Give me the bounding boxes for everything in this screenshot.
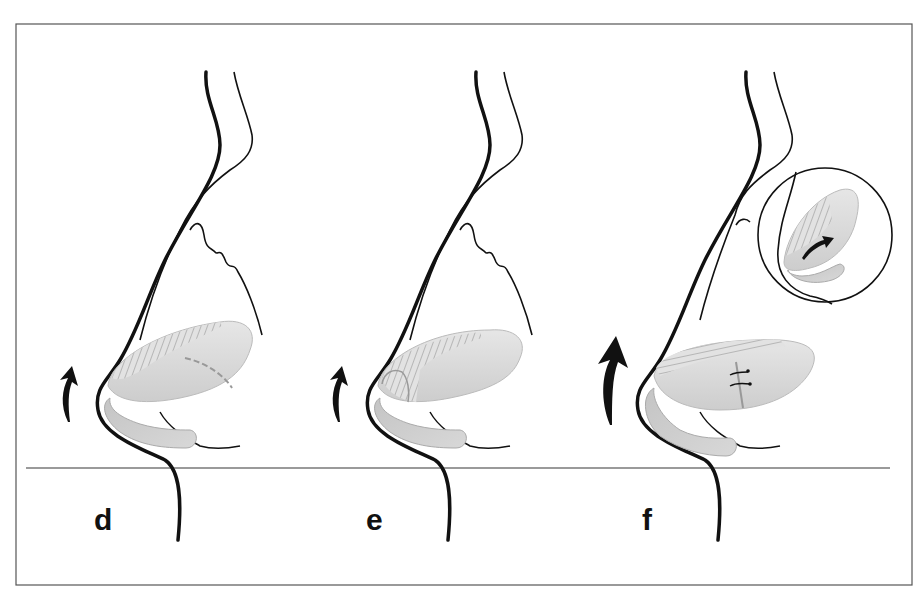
panel-label-d: d bbox=[94, 503, 112, 536]
panel-f: f bbox=[598, 72, 892, 540]
panel-label-f: f bbox=[642, 503, 653, 536]
nasal-profile-skin bbox=[97, 72, 220, 540]
inset-magnifier bbox=[758, 168, 892, 304]
panel-d: d bbox=[60, 72, 262, 540]
medial-crus-cartilage bbox=[105, 398, 197, 448]
nasal-profile-skin bbox=[367, 72, 490, 540]
suture-knot bbox=[748, 382, 752, 386]
medial-crus-cartilage bbox=[375, 398, 467, 448]
curved-up-arrow-icon bbox=[330, 366, 348, 422]
panel-label-e: e bbox=[366, 503, 383, 536]
figure-canvas: d e f bbox=[0, 0, 923, 596]
lateral-wall-line bbox=[190, 224, 262, 335]
curved-up-arrow-large-icon bbox=[598, 336, 628, 425]
inset-connector bbox=[736, 219, 750, 225]
curved-up-arrow-icon bbox=[60, 366, 78, 422]
rhinoplasty-figure: d e f bbox=[0, 0, 923, 596]
lateral-wall-line bbox=[460, 224, 532, 335]
nasal-profile-skin bbox=[637, 72, 760, 540]
panel-e: e bbox=[330, 72, 532, 540]
suture-knot bbox=[746, 369, 750, 373]
